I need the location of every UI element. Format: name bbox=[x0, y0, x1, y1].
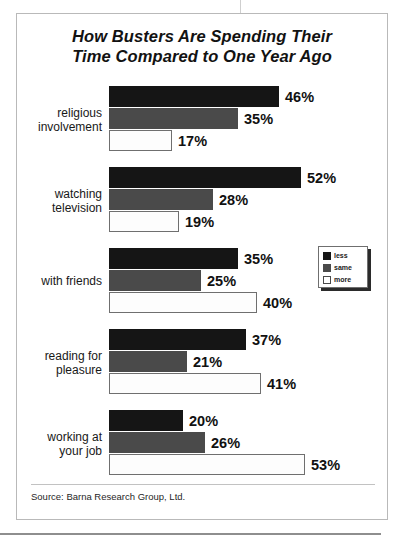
chart-frame: How Busters Are Spending Their Time Comp… bbox=[16, 13, 388, 520]
legend-item-less[interactable]: less bbox=[323, 250, 367, 261]
bar-group: reading for pleasure 37% 21% 41% bbox=[17, 329, 389, 397]
bar-more[interactable] bbox=[109, 211, 179, 232]
category-label-line: television bbox=[17, 201, 102, 215]
bar-less[interactable] bbox=[109, 86, 279, 107]
legend-label-same: same bbox=[334, 264, 352, 272]
bar-same[interactable] bbox=[109, 108, 238, 129]
bar-group: religious involvement 46% 35% 17% bbox=[17, 86, 389, 154]
legend-swatch-more-icon bbox=[323, 276, 331, 284]
legend-item-same[interactable]: same bbox=[323, 262, 367, 273]
source-note: Source: Barna Research Group, Ltd. bbox=[31, 491, 185, 502]
bar-value-same: 28% bbox=[219, 192, 248, 208]
legend-swatch-less-icon bbox=[323, 252, 331, 260]
chart-title: How Busters Are Spending Their Time Comp… bbox=[17, 26, 387, 66]
bar-group: watching television 52% 28% 19% bbox=[17, 167, 389, 235]
bar-row-same: 28% bbox=[109, 189, 389, 210]
bar-value-less: 35% bbox=[244, 251, 273, 267]
bar-row-same: 21% bbox=[109, 351, 389, 372]
bar-more[interactable] bbox=[109, 373, 261, 394]
category-label-line: working at bbox=[17, 431, 102, 445]
page-edge-top-mark bbox=[240, 0, 241, 13]
category-label: with friends bbox=[17, 275, 102, 289]
bar-value-more: 41% bbox=[267, 376, 296, 392]
category-label-line: with friends bbox=[17, 275, 102, 289]
bar-row-same: 35% bbox=[109, 108, 389, 129]
bar-value-same: 25% bbox=[207, 273, 236, 289]
bar-stack: 46% 35% 17% bbox=[109, 86, 389, 154]
category-label: religious involvement bbox=[17, 107, 102, 134]
bar-value-less: 20% bbox=[189, 413, 218, 429]
bar-less[interactable] bbox=[109, 248, 238, 269]
bar-row-more: 17% bbox=[109, 130, 389, 151]
category-label-line: watching bbox=[17, 188, 102, 202]
legend-label-less: less bbox=[334, 252, 348, 260]
bar-stack: 37% 21% 41% bbox=[109, 329, 389, 397]
category-label-line: religious bbox=[17, 107, 102, 121]
bar-value-same: 21% bbox=[193, 354, 222, 370]
category-label-line: involvement bbox=[17, 120, 102, 134]
category-label-line: reading for bbox=[17, 350, 102, 364]
bar-value-less: 52% bbox=[307, 170, 336, 186]
bar-row-more: 53% bbox=[109, 454, 389, 475]
bar-row-same: 26% bbox=[109, 432, 389, 453]
bar-row-more: 41% bbox=[109, 373, 389, 394]
bar-row-more: 19% bbox=[109, 211, 389, 232]
bar-same[interactable] bbox=[109, 189, 213, 210]
bar-stack: 20% 26% 53% bbox=[109, 410, 389, 478]
bar-more[interactable] bbox=[109, 130, 172, 151]
category-label-line: your job bbox=[17, 444, 102, 458]
legend-label-more: more bbox=[334, 276, 351, 284]
bar-less[interactable] bbox=[109, 167, 301, 188]
bar-value-more: 53% bbox=[311, 457, 340, 473]
bar-row-less: 46% bbox=[109, 86, 389, 107]
source-divider bbox=[31, 484, 375, 485]
bar-row-less: 20% bbox=[109, 410, 389, 431]
bar-value-same: 26% bbox=[211, 435, 240, 451]
category-label: reading for pleasure bbox=[17, 350, 102, 377]
bar-value-less: 46% bbox=[285, 89, 314, 105]
bar-same[interactable] bbox=[109, 270, 201, 291]
bar-value-less: 37% bbox=[252, 332, 281, 348]
legend-item-more[interactable]: more bbox=[323, 274, 367, 285]
bar-row-more: 40% bbox=[109, 292, 389, 313]
bar-stack: 52% 28% 19% bbox=[109, 167, 389, 235]
bar-more[interactable] bbox=[109, 292, 257, 313]
chart-title-line-2: Time Compared to One Year Ago bbox=[17, 46, 387, 66]
category-label-line: pleasure bbox=[17, 363, 102, 377]
chart-legend: less same more bbox=[318, 246, 368, 288]
bar-same[interactable] bbox=[109, 351, 187, 372]
bar-value-same: 35% bbox=[244, 111, 273, 127]
bar-same[interactable] bbox=[109, 432, 205, 453]
category-label: watching television bbox=[17, 188, 102, 215]
bar-value-more: 19% bbox=[185, 214, 214, 230]
chart-title-line-1: How Busters Are Spending Their bbox=[17, 26, 387, 46]
bar-group: working at your job 20% 26% 53% bbox=[17, 410, 389, 478]
bar-row-less: 52% bbox=[109, 167, 389, 188]
legend-swatch-same-icon bbox=[323, 264, 331, 272]
bar-less[interactable] bbox=[109, 329, 246, 350]
bar-row-less: 37% bbox=[109, 329, 389, 350]
category-label: working at your job bbox=[17, 431, 102, 458]
bar-value-more: 17% bbox=[178, 133, 207, 149]
bar-less[interactable] bbox=[109, 410, 183, 431]
bar-value-more: 40% bbox=[263, 295, 292, 311]
page-edge-bottom-mark bbox=[0, 533, 381, 535]
bar-more[interactable] bbox=[109, 454, 305, 475]
